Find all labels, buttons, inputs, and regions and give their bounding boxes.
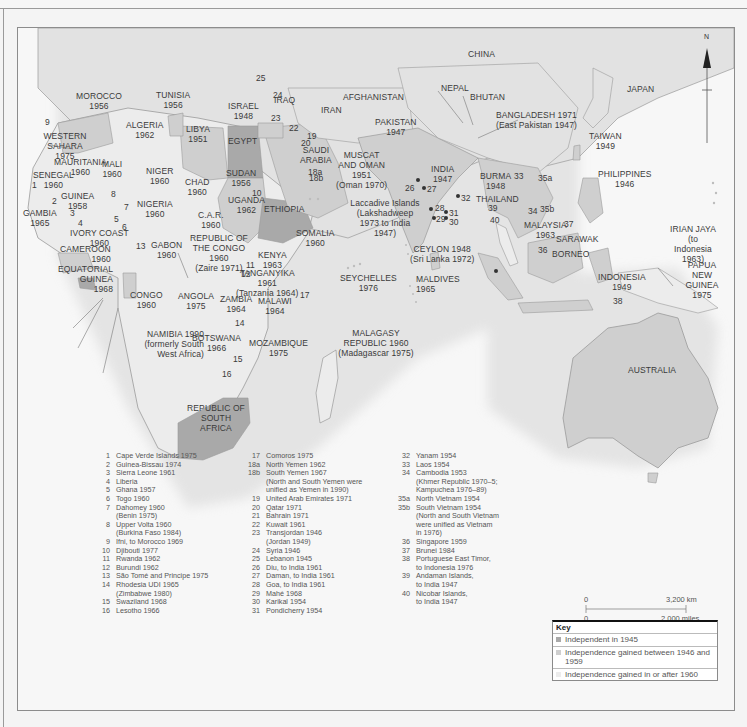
label-botswana: BOTSWANA1966	[192, 333, 241, 353]
marker-23: 23	[271, 113, 280, 123]
label-saudi-arabia: SAUDIARABIA	[300, 145, 332, 165]
label-egypt: EGYPT	[228, 136, 257, 146]
label-china: CHINA	[468, 49, 495, 59]
label-morocco: MOROCCO1956	[76, 91, 122, 111]
label-burma: BURMA1948	[480, 171, 511, 191]
label-bhutan: BHUTAN	[470, 92, 505, 102]
marker-7: 7	[124, 202, 129, 212]
label-ethiopia: ETHIOPIA	[264, 204, 304, 214]
legend-item: 16Lesotho 1966	[88, 607, 208, 616]
label-kenya: KENYA1963	[258, 250, 287, 270]
legend-item: 31Pondicherry 1954	[238, 607, 362, 616]
marker-26: 26	[405, 183, 414, 193]
marker-31: 31	[449, 208, 458, 218]
marker-25: 25	[256, 73, 265, 83]
legend-column-3: 32Yanam 1954 33Laos 1954 34Cambodia 1953…	[388, 452, 499, 607]
map-frame: N MOROCCO1956 ALGERIA1962 TUNISIA1956 LI…	[17, 27, 735, 711]
marker-18b: 18b	[309, 173, 323, 183]
label-bangladesh: BANGLADESH 1971(East Pakistan 1947)	[496, 110, 577, 130]
marker-36: 36	[538, 245, 547, 255]
key-item-1960-plus: Independence gained in or after 1960	[553, 669, 717, 681]
key-swatch-dark	[556, 637, 561, 642]
label-chad: CHAD1960	[185, 177, 210, 197]
label-congo-republic: REPUBLIC OF THE CONGO1960(Zaire 1971)	[185, 233, 253, 273]
label-papua-new-guinea: PAPUA NEW GUINEA1975	[684, 260, 720, 300]
marker-27: 27	[427, 184, 436, 194]
label-gabon: GABON1960	[151, 240, 182, 260]
marker-28: 28	[435, 203, 444, 213]
marker-35a: 35a	[538, 173, 552, 183]
marker-22: 22	[289, 123, 298, 133]
label-mozambique: MOZAMBIQUE1975	[249, 338, 308, 358]
label-malawi: MALAWI1964	[258, 296, 292, 316]
label-philippines: PHILIPPINES1946	[598, 169, 652, 189]
marker-1: 1	[32, 180, 37, 190]
label-india: INDIA1947	[431, 164, 454, 184]
marker-12: 12	[241, 269, 250, 279]
scale-km-end: 3,200 km	[666, 595, 697, 604]
marker-16: 16	[222, 369, 231, 379]
label-nepal: NEPAL	[441, 83, 469, 93]
label-senegal: SENEGAL1960	[33, 170, 74, 190]
label-somalia: SOMALIA1960	[296, 228, 335, 248]
label-iran: IRAN	[321, 105, 342, 115]
key-item-1945: Independent in 1945	[553, 634, 717, 647]
marker-39: 39	[488, 203, 497, 213]
label-uganda: UGANDA1962	[228, 195, 265, 215]
label-irian-jaya: IRIAN JAYA(to Indonesia 1963)	[668, 224, 718, 264]
map-key: Key Independent in 1945 Independence gai…	[552, 620, 718, 681]
label-sarawak: SARAWAK	[556, 234, 599, 244]
marker-3: 3	[70, 208, 75, 218]
marker-37: 37	[564, 219, 573, 229]
label-laccadive: Laccadive Islands(Lakshadweep 1973 to In…	[348, 198, 422, 238]
marker-15: 15	[233, 354, 242, 364]
key-title: Key	[553, 622, 717, 634]
marker-33: 33	[514, 171, 523, 181]
marker-40: 40	[490, 215, 499, 225]
marker-32: 32	[461, 193, 470, 203]
north-arrow-icon	[702, 46, 712, 146]
label-seychelles: SEYCHELLES1976	[340, 273, 397, 293]
label-angola: ANGOLA1975	[178, 291, 214, 311]
legend-column-1: 1Cape Verde Islands 1975 2Guinea-Bissau …	[88, 452, 208, 615]
label-nigeria: NIGERIA1960	[137, 199, 173, 219]
label-borneo: BORNEO	[552, 249, 589, 259]
label-pakistan: PAKISTAN1947	[375, 117, 417, 137]
marker-5: 5	[114, 214, 119, 224]
label-australia: AUSTRALIA	[628, 365, 676, 375]
key-item-1946-1959: Independence gained between 1946 and 195…	[553, 647, 717, 669]
compass-north-label: N	[704, 33, 709, 40]
label-malagasy: MALAGASY REPUBLIC 1960(Madagascar 1975)	[336, 328, 416, 358]
label-libya: LIBYA1951	[186, 124, 210, 144]
marker-2: 2	[52, 196, 57, 206]
label-afghanistan: AFGHANISTAN	[343, 92, 404, 102]
label-niger: NIGER1960	[146, 166, 173, 186]
label-maldives: MALDIVES1965	[416, 274, 460, 294]
legend-column-2: 17Comoros 1975 18aNorth Yemen 1962 18bSo…	[238, 452, 362, 615]
key-swatch-light	[556, 672, 561, 677]
label-sudan: SUDAN1956	[226, 168, 256, 188]
marker-9: 9	[45, 117, 50, 127]
marker-17: 17	[300, 290, 309, 300]
legend-item: to India 1947	[388, 598, 499, 607]
marker-8: 8	[111, 189, 116, 199]
label-congo: CONGO1960	[130, 290, 163, 310]
marker-35b: 35b	[540, 204, 554, 214]
label-cameroon: CAMEROON1960	[60, 244, 111, 264]
label-guinea: GUINEA1958	[61, 191, 94, 211]
label-equatorial-guinea: EQUATORIAL GUINEA1968	[51, 264, 113, 294]
label-japan: JAPAN	[627, 84, 654, 94]
marker-24: 24	[273, 90, 282, 100]
label-taiwan: TAIWAN1949	[589, 131, 622, 151]
label-muscat-oman: MUSCATAND OMAN1951(Oman 1970)	[336, 150, 387, 190]
marker-13: 13	[136, 241, 145, 251]
label-algeria: ALGERIA1962	[126, 120, 164, 140]
label-ceylon: CEYLON 1948(Sri Lanka 1972)	[410, 244, 474, 264]
label-gambia: GAMBIA1965	[23, 208, 57, 228]
label-tunisia: TUNISIA1956	[156, 90, 190, 110]
marker-30: 30	[449, 217, 458, 227]
marker-14: 14	[235, 318, 244, 328]
marker-4: 4	[78, 218, 83, 228]
page-left-border	[3, 8, 4, 727]
marker-34: 34	[528, 206, 537, 216]
